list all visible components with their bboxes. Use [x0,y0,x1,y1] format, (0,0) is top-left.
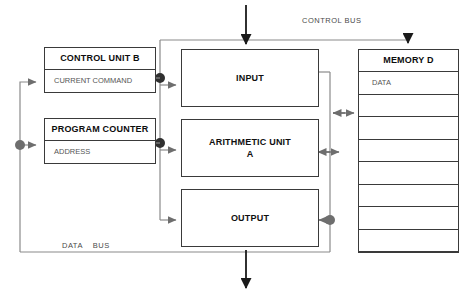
memory-cell [359,207,458,230]
memory-cell [359,117,458,140]
arithmetic-unit-label-line1: ARITHMETIC UNIT [209,136,291,148]
control-unit-block: CONTROL UNIT B CURRENT COMMAND [44,47,156,93]
memory-cell-list: DATA [359,72,458,275]
diagram-canvas: CONTROL UNIT B CURRENT COMMAND PROGRAM C… [0,0,474,297]
control-unit-title: CONTROL UNIT B [45,48,155,70]
memory-cell [359,140,458,163]
input-label: INPUT [236,72,264,84]
memory-cell: DATA [359,72,458,95]
memory-block: MEMORY D DATA [358,49,459,253]
arithmetic-unit-label-line2: A [209,148,291,160]
memory-cell [359,162,458,185]
program-counter-block: PROGRAM COUNTER ADDRESS [44,118,156,164]
control-bus-label: CONTROL BUS [302,16,361,25]
memory-cell [359,185,458,208]
junction-dot-data-bus [15,140,25,150]
arithmetic-unit-block: ARITHMETIC UNIT A [181,119,319,177]
memory-title: MEMORY D [359,50,458,72]
memory-cell [359,95,458,118]
program-counter-title: PROGRAM COUNTER [45,119,155,141]
junction-dot-output [325,215,335,225]
memory-cell [359,230,458,253]
control-bus-branches [160,85,176,220]
memory-cell [359,252,458,275]
input-block: INPUT [181,49,319,107]
output-label: OUTPUT [231,212,269,224]
program-counter-address: ADDRESS [45,141,155,164]
control-unit-current-command: CURRENT COMMAND [45,70,155,93]
data-bus-label: DATA BUS [62,241,110,250]
output-block: OUTPUT [181,189,319,247]
